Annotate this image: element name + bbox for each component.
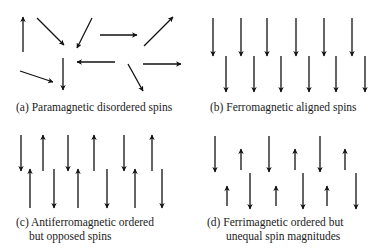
panel-ferrimagnetic — [215, 136, 356, 209]
magnetic-spin-diagram: (a) Paramagnetic disordered spins (b) Fe… — [0, 0, 383, 252]
spin-arrow-down-left — [77, 18, 92, 48]
caption-d-line2: unequal spin magnitudes — [226, 230, 341, 243]
caption-a: (a) Paramagnetic disordered spins — [16, 101, 173, 114]
caption-c-line1: (c) Antiferromagnetic ordered — [16, 216, 154, 229]
caption-d-line1: (d) Ferrimagnetic ordered but — [207, 216, 344, 229]
caption-c-line2: but opposed spins — [29, 230, 112, 243]
panel-antiferromagnetic — [21, 135, 162, 208]
spin-arrow-down-right — [128, 64, 143, 91]
caption-b: (b) Ferromagnetic aligned spins — [210, 101, 357, 114]
panel-paramagnetic — [20, 17, 181, 91]
spin-arrow-down-right — [20, 71, 53, 82]
panel-ferromagnetic — [213, 18, 365, 92]
spin-arrow-down-right — [37, 18, 64, 45]
spin-arrow-up-right — [144, 17, 173, 46]
